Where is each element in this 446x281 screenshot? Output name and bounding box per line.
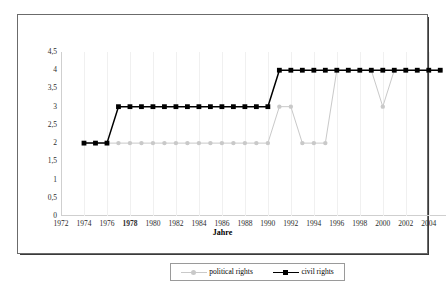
data-point-marker <box>162 141 166 145</box>
data-point-marker <box>105 141 110 146</box>
y-tick-label: 4,5 <box>48 48 57 56</box>
data-point-marker <box>139 141 143 145</box>
x-tick-label: 1998 <box>352 220 367 228</box>
y-tick-label: 2,5 <box>48 121 57 129</box>
data-point-marker <box>162 104 167 109</box>
data-point-marker <box>151 141 155 145</box>
data-point-marker <box>288 68 293 73</box>
x-tick-label: 1996 <box>329 220 344 228</box>
data-point-marker <box>174 141 178 145</box>
data-point-marker <box>380 68 385 73</box>
data-point-marker <box>369 68 374 73</box>
x-tick-label: 1988 <box>237 220 252 228</box>
data-point-marker <box>220 104 225 109</box>
data-point-marker <box>438 68 443 73</box>
data-point-marker <box>426 68 431 73</box>
x-tick-label: 1982 <box>168 220 183 228</box>
data-point-marker <box>243 141 247 145</box>
x-tick-label: 1976 <box>99 220 114 228</box>
x-tick-label: 1972 <box>54 220 69 228</box>
y-tick-label: 1 <box>53 176 57 184</box>
data-point-marker <box>93 141 98 146</box>
data-point-marker <box>197 141 201 145</box>
data-point-marker <box>334 68 339 73</box>
y-tick-label: 1,5 <box>48 158 57 166</box>
data-point-marker <box>128 104 133 109</box>
data-series <box>61 52 446 216</box>
y-tick-label: 3 <box>53 103 57 111</box>
data-point-marker <box>265 104 270 109</box>
x-tick-label: 2000 <box>375 220 390 228</box>
data-point-marker <box>139 104 144 109</box>
x-tick-label: 2004 <box>421 220 436 228</box>
data-point-marker <box>277 104 281 108</box>
x-tick-label: 1992 <box>283 220 298 228</box>
data-point-marker <box>266 141 270 145</box>
y-tick-label: 3,5 <box>48 85 57 93</box>
data-point-marker <box>300 141 304 145</box>
legend-item-political-rights: political rights <box>181 268 253 277</box>
data-point-marker <box>231 141 235 145</box>
data-point-marker <box>116 104 121 109</box>
x-tick-label: 2002 <box>398 220 413 228</box>
data-point-marker <box>289 104 293 108</box>
data-point-marker <box>242 104 247 109</box>
data-point-marker <box>323 68 328 73</box>
data-point-marker <box>197 104 202 109</box>
data-point-marker <box>277 68 282 73</box>
legend-item-civil-rights: civil rights <box>273 268 333 277</box>
data-point-marker <box>208 104 213 109</box>
data-point-marker <box>311 68 316 73</box>
legend-swatch-circle-icon <box>181 268 207 277</box>
data-point-marker <box>346 68 351 73</box>
data-point-marker <box>128 141 132 145</box>
data-point-marker <box>174 104 179 109</box>
y-tick-label: 4 <box>53 66 57 74</box>
series-line <box>84 70 440 143</box>
data-point-marker <box>392 68 397 73</box>
x-tick-label: 1980 <box>145 220 160 228</box>
plot-area: 00,511,522,533,544,5 1972197419761978198… <box>61 52 446 216</box>
data-point-marker <box>357 68 362 73</box>
x-tick-label: 1984 <box>191 220 206 228</box>
x-tick-label: 1978 <box>122 220 137 228</box>
data-point-marker <box>82 141 87 146</box>
data-point-marker <box>381 104 385 108</box>
legend-swatch-square-icon <box>273 268 299 277</box>
chart-legend: political rights civil rights <box>170 263 345 281</box>
x-tick-label: 1990 <box>260 220 275 228</box>
x-tick-label: 1974 <box>76 220 91 228</box>
data-point-marker <box>185 141 189 145</box>
legend-label: political rights <box>209 268 253 276</box>
data-point-marker <box>403 68 408 73</box>
data-point-marker <box>208 141 212 145</box>
legend-label: civil rights <box>301 268 333 276</box>
data-point-marker <box>151 104 156 109</box>
data-point-marker <box>300 68 305 73</box>
data-point-marker <box>116 141 120 145</box>
data-point-marker <box>254 104 259 109</box>
data-point-marker <box>220 141 224 145</box>
data-point-marker <box>231 104 236 109</box>
data-point-marker <box>312 141 316 145</box>
x-tick-label: 1994 <box>306 220 321 228</box>
y-tick-label: 0,5 <box>48 194 57 202</box>
data-point-marker <box>185 104 190 109</box>
chart-frame: 00,511,522,533,544,5 1972197419761978198… <box>17 14 428 254</box>
data-point-marker <box>323 141 327 145</box>
data-point-marker <box>415 68 420 73</box>
x-axis-title: Jahre <box>18 228 427 237</box>
y-tick-label: 2 <box>53 139 57 147</box>
data-point-marker <box>254 141 258 145</box>
x-tick-label: 1986 <box>214 220 229 228</box>
